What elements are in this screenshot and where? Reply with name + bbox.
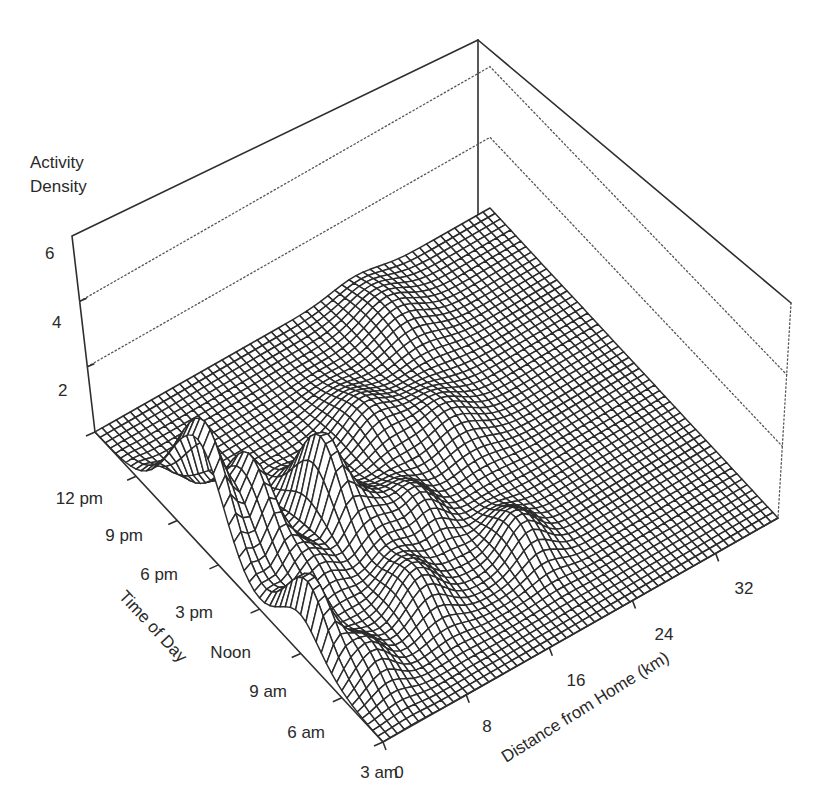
distance-tick-24: 24	[655, 625, 674, 644]
time-tick-3pm: 3 pm	[175, 603, 213, 622]
z-tick-6: 6	[45, 244, 54, 263]
time-tick-12pm: 12 pm	[56, 489, 103, 508]
distance-tick-mark	[549, 648, 552, 656]
z-tick-2: 2	[58, 381, 67, 400]
time-tick-mark	[209, 565, 218, 569]
z-axis-title-line-2: Density	[30, 177, 87, 196]
right-wall-vertical-edge	[778, 303, 791, 518]
time-tick-mark	[374, 742, 383, 746]
surface-chart: Activity Density 6 4 2 3 am 6 am 9 am No…	[0, 0, 829, 808]
distance-tick-mark	[632, 601, 635, 609]
distance-tick-32: 32	[735, 579, 754, 598]
distance-tick-8: 8	[482, 717, 491, 736]
time-tick-noon: Noon	[210, 643, 251, 662]
distance-tick-mark	[716, 553, 719, 561]
time-tick-mark	[86, 432, 95, 436]
time-tick-9pm: 9 pm	[105, 526, 143, 545]
z-axis-tick-labels: 6 4 2	[45, 244, 67, 400]
time-tick-6am: 6 am	[287, 723, 325, 742]
z-tick-4: 4	[52, 313, 61, 332]
z-axis-title: Activity Density	[30, 153, 87, 196]
time-tick-mark	[168, 521, 177, 525]
distance-tick-mark	[466, 695, 469, 703]
time-tick-mark	[251, 609, 260, 613]
time-tick-9am: 9 am	[249, 682, 287, 701]
distance-tick-16: 16	[567, 671, 586, 690]
time-tick-3am: 3 am	[360, 763, 398, 782]
time-tick-6pm: 6 pm	[140, 565, 178, 584]
time-tick-mark	[127, 476, 136, 480]
surface-mesh	[95, 208, 778, 742]
distance-axis-title: Distance from Home (km)	[498, 648, 672, 767]
time-axis-title: Time of Day	[115, 587, 191, 667]
time-tick-mark	[333, 698, 342, 702]
z-axis-title-line-1: Activity	[30, 153, 84, 172]
distance-tick-mark	[383, 742, 386, 750]
distance-tick-0: 0	[394, 763, 403, 782]
time-tick-mark	[292, 653, 301, 657]
